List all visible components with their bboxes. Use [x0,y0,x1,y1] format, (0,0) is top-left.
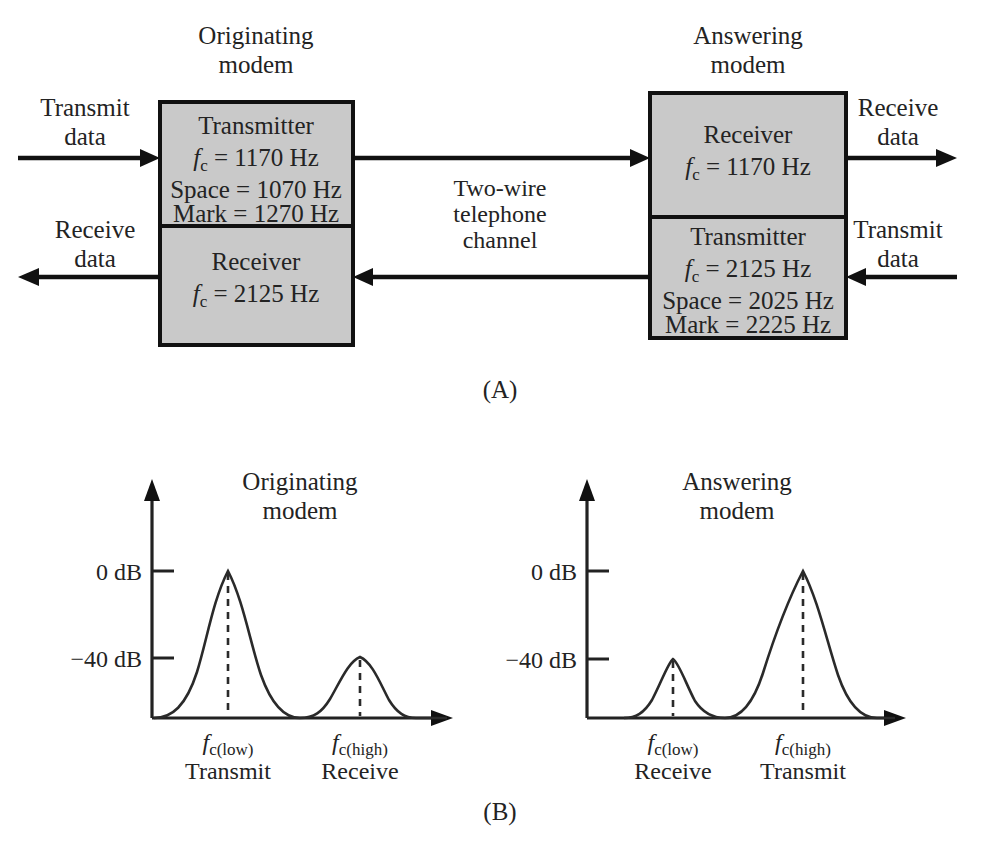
chart-left-ytick-label-minus40db: −40 dB [70,646,142,672]
chart-left-xcaption-transmit: Transmit [185,758,271,784]
fc-subscript-clow: c(low) [209,740,253,759]
chart-right-title-line1: Answering [682,468,792,495]
chart-right-ytick-label-minus40db: −40 dB [505,647,577,673]
chart-right-y-axis-arrowhead [579,479,595,501]
fc-subscript-chigh: c(high) [782,740,831,759]
answering-modem-heading-line2: modem [711,51,787,78]
fc-value: = 1170 Hz [700,153,811,180]
transmit-data-left-label-line2: data [64,123,106,150]
answering-receiver-role: Receiver [704,121,794,148]
originating-receiver-role: Receiver [212,248,302,275]
panel-b-label: (B) [483,798,516,826]
chart-left-ytick-label-0db: 0 dB [96,559,142,585]
chart-left-y-axis-arrowhead [144,479,160,501]
originating-transmitter-fc: fc = 1170 Hz [193,144,319,175]
chart-left-spectrum-curve [154,571,447,718]
fc-value: = 1170 Hz [208,144,319,171]
receive-data-left-label-line1: Receive [55,216,136,243]
originating-modem-heading-line1: Originating [198,22,314,49]
answering-transmitter-space: Space = 2025 Hz [662,287,834,314]
transmit-data-in-right-arrowhead [846,268,866,286]
chart-right-xtick-fclow: fc(low) [647,729,698,759]
transmit-data-in-arrowhead [140,149,160,167]
fc-subscript-chigh: c(high) [339,740,388,759]
fc-value: = 2125 Hz [699,255,811,282]
transmit-data-right-label-line2: data [877,245,919,272]
chart-right-xcaption-receive: Receive [634,758,711,784]
channel-lower-arrowhead [353,268,373,286]
chart-right-title-line2: modem [700,497,776,524]
chart-left-xcaption-receive: Receive [321,758,398,784]
receive-data-right-label-line2: data [877,123,919,150]
chart-right-xcaption-transmit: Transmit [760,758,846,784]
transmit-data-right-label-line1: Transmit [853,216,942,243]
chart-left-xtick-fclow: fc(low) [202,729,253,759]
chart-right-spectrum-curve [624,571,895,718]
panel-a-label: (A) [483,376,518,404]
fc-value: = 2125 Hz [207,280,319,307]
chart-originating-modem: Originating modem 0 dB −40 dB fc(low) Tr… [70,468,453,784]
channel-label-line3: channel [463,227,538,253]
channel-label-line2: telephone [453,201,546,227]
chart-left-title-line2: modem [263,497,339,524]
receive-data-out-arrowhead [936,149,957,167]
chart-right-ytick-label-0db: 0 dB [531,559,577,585]
fc-subscript-clow: c(low) [654,740,698,759]
modem-fsk-figure: Originating modem Answering modem Transm… [0,0,987,853]
chart-left-title-line1: Originating [242,468,358,495]
originating-modem-heading-line2: modem [219,51,295,78]
channel-label-line1: Two-wire [454,175,547,201]
answering-transmitter-role: Transmitter [690,223,806,250]
answering-transmitter-fc: fc = 2125 Hz [685,255,812,286]
receive-data-out-left-arrowhead [18,268,39,286]
originating-receiver-fc: fc = 2125 Hz [193,280,320,311]
receive-data-right-label-line1: Receive [858,94,939,121]
chart-answering-modem: Answering modem 0 dB −40 dB fc(low) Rece… [505,468,906,784]
chart-left-xtick-fchigh: fc(high) [332,729,388,759]
receive-data-left-label-line2: data [74,245,116,272]
originating-transmitter-role: Transmitter [198,112,314,139]
originating-transmitter-mark: Mark = 1270 Hz [173,200,339,227]
answering-receiver-fc: fc = 1170 Hz [685,153,811,184]
originating-transmitter-space: Space = 1070 Hz [170,176,342,203]
channel-upper-arrowhead [630,149,650,167]
answering-transmitter-mark: Mark = 2225 Hz [665,311,831,338]
transmit-data-left-label-line1: Transmit [40,94,129,121]
chart-right-xtick-fchigh: fc(high) [775,729,831,759]
answering-modem-heading-line1: Answering [693,22,803,49]
